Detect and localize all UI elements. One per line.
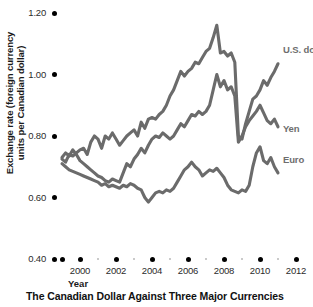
series-line-u-s-dollar [62,25,278,162]
x-tick-label: 2012 [279,265,313,276]
series-label-yen: Yen [283,123,300,134]
x-tick-dot-minor [133,258,135,260]
x-tick-label: 2000 [63,265,97,276]
x-tick-dot [150,257,155,262]
series-line-yen [62,75,278,183]
chart-container: Exchange rate (foreign currency units pe… [0,0,313,307]
x-tick-dot-minor [97,258,99,260]
x-tick-dot [114,257,119,262]
x-tick-dot-origin [60,257,65,262]
plot-area [0,0,313,307]
series-label-euro: Euro [283,154,304,165]
x-tick-dot-minor [277,258,279,260]
x-tick-dot [78,257,83,262]
x-tick-label: 2006 [171,265,205,276]
x-tick-dot [222,257,227,262]
x-tick-dot-minor [205,258,207,260]
x-tick-dot [258,257,263,262]
x-tick-label: 2004 [135,265,169,276]
x-tick-dot-minor [169,258,171,260]
x-axis-title: Year [68,278,88,289]
x-tick-label: 2010 [243,265,277,276]
x-tick-label: 2008 [207,265,241,276]
series-label-u-s-dollar: U.S. dollar [283,44,313,55]
x-tick-dot-minor [241,258,243,260]
x-tick-dot [294,257,299,262]
chart-title: The Canadian Dollar Against Three Major … [26,290,284,302]
x-tick-label: 2002 [99,265,133,276]
x-tick-dot [186,257,191,262]
